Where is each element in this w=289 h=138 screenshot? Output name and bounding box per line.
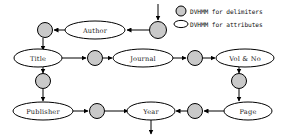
page-label: Page [240,108,257,116]
legend-item-attributes: DVHMM for attributes [174,20,263,28]
diagram-canvas: Author Title Journal Vol & No Publisher [0,0,289,138]
delimiter-node-author-left[interactable] [38,23,53,38]
publisher-label: Publisher [26,108,60,116]
delimiter-node-page-year[interactable] [188,104,203,119]
delimiter-node-publisher-year[interactable] [90,104,105,119]
delimiter-node-vol-page[interactable] [232,74,247,89]
attribute-node-author[interactable]: Author [65,21,125,39]
legend-item-delimiters: DVHMM for delimiters [176,6,263,16]
dvhmm-diagram: Author Title Journal Vol & No Publisher [0,0,289,138]
year-label: Year [142,108,159,116]
vol-no-label: Vol & No [228,55,261,63]
delimiter-node-title-publisher[interactable] [36,74,51,89]
attribute-node-vol-no[interactable]: Vol & No [216,49,274,67]
legend-attribute-ellipse-icon [174,20,188,27]
attribute-node-page[interactable]: Page [224,102,272,120]
delimiter-node-journal-vol[interactable] [188,51,203,66]
attribute-node-journal[interactable]: Journal [113,49,173,67]
title-label: Title [30,55,46,63]
delimiter-node-entry[interactable] [150,22,167,39]
delimiter-node-title-journal[interactable] [88,51,103,66]
author-label: Author [82,27,108,35]
attribute-nodes: Author Title Journal Vol & No Publisher [13,21,274,120]
attribute-node-publisher[interactable]: Publisher [13,102,73,120]
legend-delimiter-circle-icon [176,6,186,16]
legend-delimiters-label: DVHMM for delimiters [190,8,263,15]
attribute-node-year[interactable]: Year [127,102,175,120]
journal-label: Journal [129,55,156,63]
attribute-node-title[interactable]: Title [14,49,62,67]
legend-attributes-label: DVHMM for attributes [190,21,263,28]
legend: DVHMM for delimiters DVHMM for attribute… [174,6,263,28]
